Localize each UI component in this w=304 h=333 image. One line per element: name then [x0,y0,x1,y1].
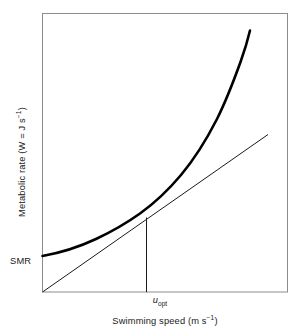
chart-canvas [0,0,304,333]
plot-frame [43,14,288,293]
x-axis-label: Swimming speed (m s−1) [42,314,288,326]
y-axis-label-tail: ) [17,107,27,110]
u-opt-annotation: uopt [118,295,202,307]
u-opt-subscript: opt [158,300,167,307]
y-axis-label-main: Metabolic rate (W = J s [17,118,27,217]
x-axis-label-main: Swimming speed (m s [112,316,206,326]
y-axis-label: Metabolic rate (W = J s−1) [15,62,27,262]
y-axis-label-exponent: −1 [15,110,22,118]
smr-annotation: SMR [10,256,31,266]
x-axis-label-tail: ) [214,316,217,326]
metabolic-rate-figure: Metabolic rate (W = J s−1) SMR uopt Swim… [0,0,304,333]
